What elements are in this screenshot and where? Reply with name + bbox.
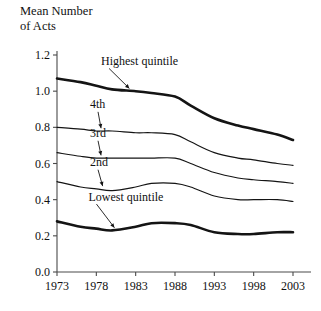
- x-tick-label: 1983: [124, 279, 148, 293]
- y-tick-label: 0.4: [35, 193, 50, 207]
- x-tick-label: 2003: [281, 279, 305, 293]
- x-tick-label: 1988: [163, 279, 187, 293]
- y-axis-ticks: 1.21.00.80.60.40.20.0: [35, 48, 57, 279]
- series-line-lowest-quintile: [57, 221, 293, 234]
- y-tick-label: 1.0: [35, 84, 50, 98]
- y-tick-label: 0.0: [35, 265, 50, 279]
- leader-arrowhead: [110, 223, 114, 228]
- chart-container: Mean Numberof Acts 1.21.00.80.60.40.20.0…: [0, 0, 321, 311]
- y-tick-label: 0.6: [35, 157, 50, 171]
- x-axis-ticks: 1973197819831988199319982003: [45, 272, 305, 293]
- series-label: 4th: [90, 97, 105, 111]
- series-label: Highest quintile: [101, 54, 178, 68]
- series-label: 3rd: [90, 126, 106, 140]
- x-tick-label: 1998: [242, 279, 266, 293]
- leader-line: [109, 68, 129, 88]
- leader-line: [96, 204, 114, 228]
- x-tick-label: 1978: [84, 279, 108, 293]
- series-label: Lowest quintile: [88, 190, 163, 204]
- y-tick-label: 1.2: [35, 48, 50, 62]
- series-annotations: Highest quintile4th3rd2ndLowest quintile: [88, 54, 178, 228]
- y-tick-label: 0.2: [35, 229, 50, 243]
- series-label: 2nd: [90, 155, 108, 169]
- x-tick-label: 1993: [202, 279, 226, 293]
- y-tick-label: 0.8: [35, 120, 50, 134]
- line-chart-plot: 1.21.00.80.60.40.20.0 197319781983198819…: [0, 0, 321, 311]
- x-tick-label: 1973: [45, 279, 69, 293]
